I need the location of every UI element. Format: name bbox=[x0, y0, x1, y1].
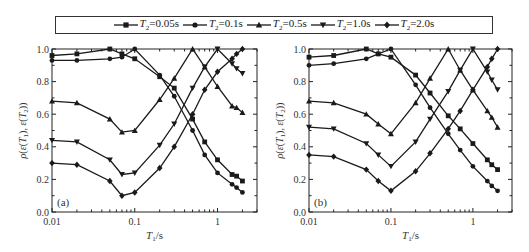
square-marker bbox=[240, 179, 245, 184]
triangle-up-marker bbox=[413, 100, 419, 105]
diamond-marker bbox=[331, 153, 337, 159]
y-axis-label: ρ(ε(T1), ε(T2)) bbox=[17, 103, 30, 160]
x-tick-label: 0.1 bbox=[129, 216, 142, 227]
square-marker bbox=[234, 174, 239, 179]
panel-label: (a) bbox=[57, 196, 70, 209]
series-diamond bbox=[49, 46, 245, 199]
square-marker bbox=[215, 157, 220, 162]
circle-marker bbox=[234, 185, 239, 190]
triangle-down-marker bbox=[489, 78, 495, 83]
square-marker bbox=[172, 86, 177, 91]
square-marker bbox=[428, 91, 433, 96]
circle-marker bbox=[190, 128, 195, 133]
circle-marker bbox=[120, 55, 125, 60]
circle-marker bbox=[489, 184, 494, 189]
circle-marker bbox=[331, 61, 336, 66]
chart-panel-a: 0.010.110.00.20.40.60.81.0T1/sρ(ε(T1), ε… bbox=[17, 44, 257, 244]
y-tick-label: 0.2 bbox=[37, 174, 50, 185]
x-tick-label: 1 bbox=[215, 216, 220, 227]
circle-marker bbox=[389, 47, 394, 52]
x-tick-label: 0.1 bbox=[385, 216, 398, 227]
circle-marker bbox=[470, 164, 475, 169]
x-tick-label: 0.01 bbox=[300, 216, 318, 227]
diamond-marker bbox=[74, 162, 80, 168]
circle-marker bbox=[376, 51, 381, 56]
circle-marker bbox=[132, 47, 137, 52]
circle-marker bbox=[428, 105, 433, 110]
diamond-marker bbox=[49, 160, 55, 166]
circle-marker bbox=[240, 190, 245, 195]
circle-marker bbox=[202, 153, 207, 158]
circle-marker bbox=[364, 56, 369, 61]
triangle-down-marker bbox=[388, 164, 394, 169]
y-tick-label: 1.0 bbox=[37, 44, 50, 55]
circle-marker bbox=[157, 73, 162, 78]
panel-label: (b) bbox=[314, 196, 327, 209]
square-marker bbox=[331, 53, 336, 58]
y-axis-label: ρ(ε(T1), ε(T2)) bbox=[274, 103, 287, 160]
y-tick-label: 0.8 bbox=[37, 76, 50, 87]
circle-marker bbox=[172, 94, 177, 99]
chart-panel-b: 0.010.110.00.20.40.60.81.0T1/sρ(ε(T1), ε… bbox=[274, 44, 512, 244]
y-tick-label: 0.8 bbox=[294, 76, 307, 87]
x-tick-label: 0.01 bbox=[43, 216, 61, 227]
square-marker bbox=[50, 53, 55, 58]
chart-canvas: 0.010.110.00.20.40.60.81.0T1/sρ(ε(T1), ε… bbox=[0, 0, 529, 252]
y-tick-label: 1.0 bbox=[294, 44, 307, 55]
circle-marker bbox=[495, 188, 500, 193]
circle-marker bbox=[307, 63, 312, 68]
square-marker bbox=[485, 157, 490, 162]
square-marker bbox=[389, 55, 394, 60]
y-tick-label: 0.2 bbox=[294, 174, 307, 185]
circle-marker bbox=[485, 179, 490, 184]
y-tick-label: 0.0 bbox=[37, 207, 50, 218]
square-marker bbox=[75, 51, 80, 56]
triangle-down-marker bbox=[239, 71, 245, 76]
square-marker bbox=[495, 167, 500, 172]
square-marker bbox=[364, 47, 369, 52]
plot-frame bbox=[309, 49, 512, 212]
series-circle bbox=[50, 47, 245, 195]
circle-marker bbox=[75, 58, 80, 63]
triangle-up-marker bbox=[495, 124, 501, 129]
y-tick-label: 0.6 bbox=[294, 109, 307, 120]
circle-marker bbox=[230, 182, 235, 187]
square-marker bbox=[446, 113, 451, 118]
x-axis-label: T1/s bbox=[146, 229, 163, 243]
triangle-down-marker bbox=[190, 86, 196, 91]
circle-marker bbox=[458, 148, 463, 153]
y-tick-label: 0.0 bbox=[294, 207, 307, 218]
circle-marker bbox=[107, 56, 112, 61]
square-marker bbox=[230, 172, 235, 177]
square-marker bbox=[413, 73, 418, 78]
circle-marker bbox=[413, 82, 418, 87]
series-circle bbox=[307, 47, 500, 194]
circle-marker bbox=[215, 170, 220, 175]
square-marker bbox=[132, 56, 137, 61]
series-line bbox=[309, 49, 498, 134]
series-line bbox=[309, 49, 498, 191]
triangle-down-marker bbox=[495, 87, 501, 92]
y-tick-label: 0.4 bbox=[294, 141, 307, 152]
series-line bbox=[52, 49, 242, 196]
square-marker bbox=[489, 162, 494, 167]
x-tick-label: 1 bbox=[470, 216, 475, 227]
square-marker bbox=[107, 47, 112, 52]
square-marker bbox=[470, 141, 475, 146]
y-tick-label: 0.6 bbox=[37, 109, 50, 120]
y-tick-label: 0.4 bbox=[37, 141, 50, 152]
square-marker bbox=[202, 140, 207, 145]
diamond-marker bbox=[306, 152, 312, 158]
circle-marker bbox=[50, 58, 55, 63]
x-axis-label: T1/s bbox=[402, 229, 419, 243]
square-marker bbox=[458, 126, 463, 131]
square-marker bbox=[307, 55, 312, 60]
series-line bbox=[309, 49, 498, 191]
series-line bbox=[52, 49, 242, 192]
triangle-up-marker bbox=[171, 75, 177, 80]
